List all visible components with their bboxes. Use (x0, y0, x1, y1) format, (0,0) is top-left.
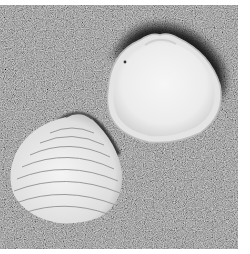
shell-photo (0, 5, 238, 249)
photo-canvas (0, 5, 238, 249)
